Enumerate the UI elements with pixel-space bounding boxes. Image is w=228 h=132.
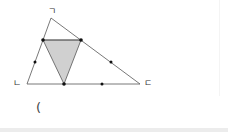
triangle-diagram: ㄱ ㄴ ㄷ ( <box>0 0 228 132</box>
point-right-upper <box>79 38 83 42</box>
triangle-figure-svg <box>0 0 228 132</box>
vertex-label-top: ㄱ <box>48 7 56 16</box>
shaded-inner-triangle <box>43 40 81 84</box>
vertex-label-bottom-left: ㄴ <box>13 79 21 88</box>
outer-triangle <box>27 18 140 84</box>
vertex-label-bottom-right: ㄷ <box>144 79 152 88</box>
point-bottom-right <box>101 83 104 86</box>
answer-parenthesis: ( <box>36 101 41 114</box>
point-bottom-shaded <box>62 82 66 86</box>
bottom-divider-band <box>0 128 228 132</box>
point-right-side <box>110 61 113 64</box>
point-left-lower <box>34 61 37 64</box>
right-edge-rule <box>219 0 220 96</box>
point-left-upper <box>41 38 45 42</box>
